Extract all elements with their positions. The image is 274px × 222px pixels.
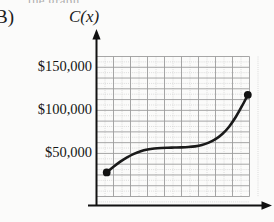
plot-svg <box>0 0 274 222</box>
figure-container: the graph B) C(x) $150,000 $100,000 $50,… <box>0 0 274 222</box>
y-axis-arrow <box>92 29 100 40</box>
x-axis-arrow <box>262 201 273 209</box>
curve-start-point <box>103 168 111 176</box>
curve-end-point <box>244 91 252 99</box>
cost-curve <box>107 95 248 173</box>
